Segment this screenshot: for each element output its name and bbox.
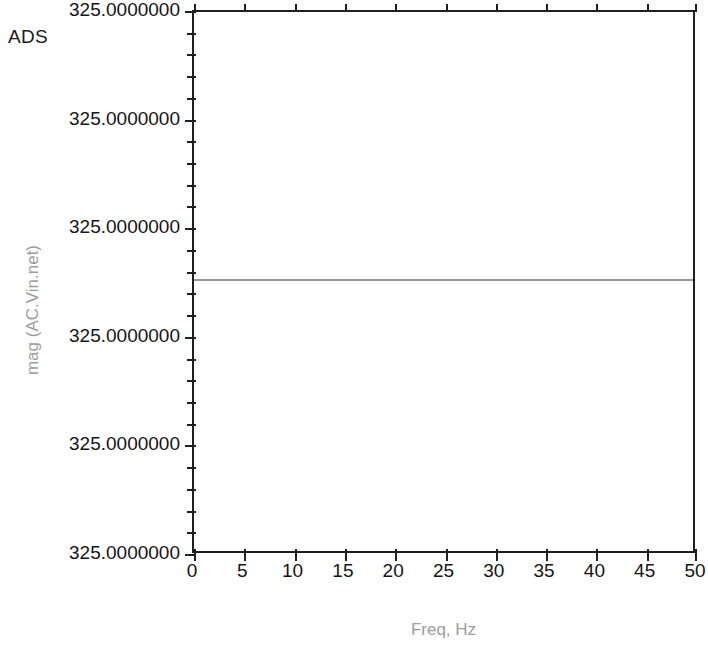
y-axis-minor-tick (187, 272, 196, 274)
x-axis-tick-label: 35 (534, 560, 555, 582)
y-axis-tick-label: 325.0000000 (69, 542, 180, 564)
y-axis-major-tick (185, 120, 196, 122)
x-axis-tick-label: 20 (383, 560, 404, 582)
x-axis-top-tick (194, 4, 196, 12)
y-axis-minor-tick (187, 98, 196, 100)
x-axis-top-tick (695, 4, 697, 12)
x-axis-top-tick (395, 4, 397, 12)
y-axis-minor-tick (187, 293, 196, 295)
y-axis-minor-tick (187, 315, 196, 317)
y-axis-minor-tick (187, 532, 196, 534)
y-axis-minor-tick (187, 402, 196, 404)
x-axis-top-tick (596, 4, 598, 12)
y-axis-minor-tick (187, 76, 196, 78)
x-axis-tick-label: 50 (684, 560, 705, 582)
y-axis-minor-tick (187, 206, 196, 208)
x-axis-tick-label: 45 (634, 560, 655, 582)
y-axis-minor-tick (187, 511, 196, 513)
data-series-line (194, 279, 693, 281)
y-axis-tick-label: 325.0000000 (69, 433, 180, 455)
y-axis-major-tick (185, 445, 196, 447)
plot-area[interactable] (192, 10, 695, 553)
y-axis-minor-tick (187, 185, 196, 187)
y-axis-tick-label: 325.0000000 (69, 325, 180, 347)
y-axis-minor-tick (187, 489, 196, 491)
y-axis-minor-tick (187, 163, 196, 165)
x-axis-tick-label: 40 (584, 560, 605, 582)
x-axis-top-tick (546, 4, 548, 12)
y-axis-tick-label: 325.0000000 (69, 216, 180, 238)
y-axis-minor-tick (187, 33, 196, 35)
x-axis-top-tick (244, 4, 246, 12)
y-axis-minor-tick (187, 54, 196, 56)
y-axis-minor-tick (187, 141, 196, 143)
y-axis-tick-label: 325.0000000 (69, 0, 180, 21)
x-axis-title: Freq, Hz (192, 620, 695, 640)
x-axis-tick-label: 30 (483, 560, 504, 582)
x-axis-top-tick (446, 4, 448, 12)
x-axis-top-tick (647, 4, 649, 12)
y-axis-minor-tick (187, 250, 196, 252)
y-axis-minor-tick (187, 424, 196, 426)
x-axis-top-tick (496, 4, 498, 12)
y-axis-tick-label: 325.0000000 (69, 108, 180, 130)
y-axis-title: mag (AC.Vin.net) (23, 180, 43, 440)
x-axis-tick-label-group: 05101520253035404550 (192, 560, 695, 590)
y-axis-minor-tick (187, 467, 196, 469)
y-axis-minor-tick (187, 380, 196, 382)
y-axis-major-tick (185, 228, 196, 230)
x-axis-tick-label: 25 (433, 560, 454, 582)
x-axis-tick-label: 10 (282, 560, 303, 582)
x-axis-tick-label: 15 (332, 560, 353, 582)
x-axis-top-tick (295, 4, 297, 12)
x-axis-tick-label: 0 (187, 560, 198, 582)
x-axis-tick-label: 5 (237, 560, 248, 582)
y-axis-major-tick (185, 337, 196, 339)
y-axis-minor-tick (187, 359, 196, 361)
x-axis-top-tick (345, 4, 347, 12)
